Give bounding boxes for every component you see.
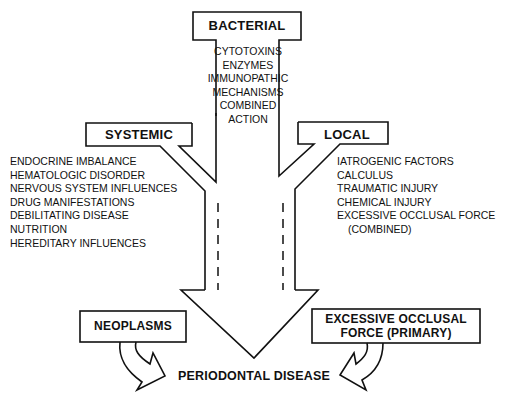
list-item: IMMUNOPATHIC (188, 72, 308, 86)
list-item: TRAUMATIC INJURY (337, 182, 495, 196)
list-item: ACTION (188, 113, 308, 127)
list-item: NUTRITION (10, 223, 177, 237)
excessive-arrow (340, 343, 383, 390)
list-item: HEMATOLOGIC DISORDER (10, 169, 177, 183)
neoplasms-label: NEOPLASMS (80, 320, 186, 332)
list-item: EXCESSIVE OCCLUSAL FORCE (337, 209, 495, 223)
outcome-label: PERIODONTAL DISEASE (164, 370, 344, 383)
etiology-diagram: BACTERIAL CYTOTOXINS ENZYMES IMMUNOPATHI… (0, 0, 518, 402)
list-item: CALCULUS (337, 169, 495, 183)
list-item: NERVOUS SYSTEM INFLUENCES (10, 182, 177, 196)
list-item: (COMBINED) (337, 223, 495, 237)
excessive-label-line1: EXCESSIVE OCCLUSAL (312, 312, 480, 326)
list-item: ENDOCRINE IMBALANCE (10, 155, 177, 169)
list-item: DRUG MANIFESTATIONS (10, 196, 177, 210)
bacterial-label: BACTERIAL (193, 19, 301, 32)
list-item: CHEMICAL INJURY (337, 196, 495, 210)
main-arrow-head (181, 290, 318, 358)
list-item: ENZYMES (188, 59, 308, 73)
systemic-label: SYSTEMIC (86, 128, 192, 141)
list-item: HEREDITARY INFLUENCES (10, 237, 177, 251)
local-items: IATROGENIC FACTORS CALCULUS TRAUMATIC IN… (337, 155, 495, 237)
excessive-label: EXCESSIVE OCCLUSAL FORCE (PRIMARY) (312, 312, 480, 340)
list-item: DEBILITATING DISEASE (10, 209, 177, 223)
list-item: CYTOTOXINS (188, 45, 308, 59)
neoplasms-arrow (120, 342, 165, 390)
list-item: COMBINED (188, 99, 308, 113)
list-item: IATROGENIC FACTORS (337, 155, 495, 169)
list-item: MECHANISMS (188, 86, 308, 100)
bacterial-items: CYTOTOXINS ENZYMES IMMUNOPATHIC MECHANIS… (188, 45, 308, 127)
systemic-items: ENDOCRINE IMBALANCE HEMATOLOGIC DISORDER… (10, 155, 177, 250)
excessive-label-line2: FORCE (PRIMARY) (312, 326, 480, 340)
local-label: LOCAL (324, 128, 370, 141)
